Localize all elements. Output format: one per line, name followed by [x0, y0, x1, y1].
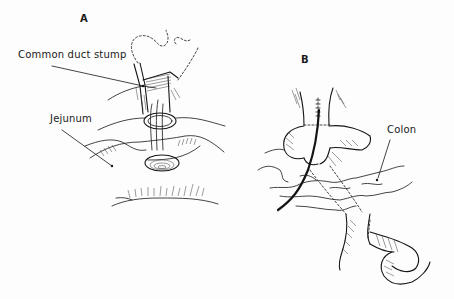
jejunum-label: Jejunum [50, 113, 92, 124]
panel-a-letter: A [80, 13, 88, 24]
colon-label: Colon [387, 124, 416, 135]
illustration-artwork [0, 0, 454, 299]
panel-b-letter: B [301, 54, 309, 65]
surgical-illustration-figure: A Common duct stump Jejunum B Colon [0, 0, 454, 299]
common-duct-stump-label: Common duct stump [18, 49, 126, 60]
panel-b-drawing [258, 88, 430, 284]
